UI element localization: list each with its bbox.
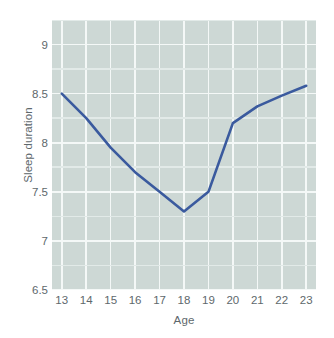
y-tick-label: 7.5 — [8, 186, 48, 198]
series-line-sleep-duration — [52, 20, 316, 290]
y-tick-label: 8.5 — [8, 88, 48, 100]
y-tick-label: 7 — [8, 235, 48, 247]
chart-figure: Sleep duration 6.577.588.59 131415161718… — [0, 0, 334, 338]
plot-area — [52, 20, 316, 290]
x-tick-label: 23 — [291, 294, 321, 306]
y-tick-label: 8 — [8, 137, 48, 149]
y-tick-label: 6.5 — [8, 284, 48, 296]
y-tick-label: 9 — [8, 39, 48, 51]
x-axis-title: Age — [52, 314, 316, 326]
